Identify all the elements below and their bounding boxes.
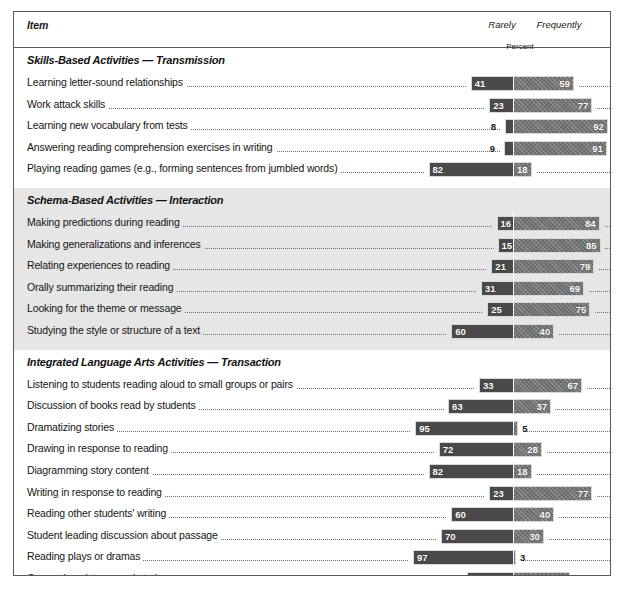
chart-row: Drawing in response to reading7228	[14, 439, 610, 461]
bar-group: 991	[14, 138, 610, 160]
bar-value-frequently: 37	[534, 399, 547, 414]
legend-label-rarely: Rarely	[475, 19, 529, 30]
chart-row: Diagramming story content8218	[14, 461, 610, 483]
zero-divider	[513, 526, 514, 548]
bar-value-frequently: 28	[525, 442, 538, 457]
bar-value-rarely: 33	[483, 378, 494, 393]
bar-group: 2179	[14, 256, 610, 278]
bar-value-frequently: 30	[527, 529, 540, 544]
bar-value-rarely: 16	[501, 216, 512, 231]
bar-rarely	[505, 119, 513, 134]
bar-value-frequently: 3	[520, 550, 525, 565]
chart-body: Skills-Based Activities — TransmissionLe…	[14, 48, 610, 575]
zero-divider	[513, 461, 514, 483]
chart-header: Item Rarely Frequently Percent	[14, 12, 610, 48]
bar-value-rarely: 23	[493, 98, 504, 113]
bar-group: 7228	[14, 439, 610, 461]
zero-divider	[513, 418, 514, 440]
bar-value-frequently: 18	[515, 464, 528, 479]
zero-divider	[513, 321, 514, 343]
zero-divider	[513, 299, 514, 321]
zero-divider	[513, 73, 514, 95]
bar-value-rarely: 95	[419, 421, 430, 436]
chart-row: Making generalizations and inferences158…	[14, 235, 610, 257]
zero-divider	[513, 483, 514, 505]
chart-section: Integrated Language Arts Activities — Tr…	[14, 350, 610, 576]
zero-divider	[513, 138, 514, 160]
bar-value-rarely: 31	[485, 281, 496, 296]
zero-divider	[513, 278, 514, 300]
chart-row: Comparing pictures and stories4555	[14, 569, 610, 576]
chart-row: Discussion of books read by students6337	[14, 396, 610, 418]
bar-group: 4555	[14, 569, 610, 576]
chart-row: Making predictions during reading1684	[14, 213, 610, 235]
chart-row: Looking for the theme or message2575	[14, 299, 610, 321]
chart-row: Reading other students' writing6040	[14, 504, 610, 526]
bar-value-frequently: 59	[557, 76, 570, 91]
bar-group: 3367	[14, 375, 610, 397]
chart-row: Relating experiences to reading2179	[14, 256, 610, 278]
chart-row: Learning letter-sound relationships4159	[14, 73, 610, 95]
zero-divider	[513, 256, 514, 278]
chart-row: Student leading discussion about passage…	[14, 526, 610, 548]
zero-divider	[513, 547, 514, 569]
bar-value-rarely: 25	[491, 302, 502, 317]
bar-value-rarely: 97	[417, 550, 428, 565]
chart-section: Skills-Based Activities — TransmissionLe…	[14, 48, 610, 188]
section-title: Skills-Based Activities — Transmission	[14, 48, 610, 73]
bar-value-frequently: 40	[537, 507, 550, 522]
chart-row: Work attack skills2377	[14, 95, 610, 117]
bar-group: 2377	[14, 95, 610, 117]
section-spacer	[14, 343, 610, 350]
bar-value-rarely: 45	[471, 572, 482, 576]
bar-rarely	[413, 550, 513, 565]
bar-value-rarely: 72	[443, 442, 454, 457]
bar-value-frequently: 85	[584, 238, 597, 253]
chart-row: Playing reading games (e.g., forming sen…	[14, 159, 610, 181]
bar-group: 6040	[14, 504, 610, 526]
bar-value-frequently: 5	[522, 421, 527, 436]
legend-label-frequently: Frequently	[523, 19, 595, 30]
bar-value-rarely: 70	[445, 529, 456, 544]
zero-divider	[513, 159, 514, 181]
bar-group: 7030	[14, 526, 610, 548]
chart-frame: Item Rarely Frequently Percent Skills-Ba…	[13, 11, 611, 576]
bar-rarely	[504, 141, 513, 156]
bar-value-rarely: 63	[452, 399, 463, 414]
zero-divider	[513, 439, 514, 461]
bar-value-frequently: 91	[590, 141, 603, 156]
chart-row: Answering reading comprehension exercise…	[14, 138, 610, 160]
chart-section: Schema-Based Activities — InteractionMak…	[14, 188, 610, 350]
chart-row: Studying the style or structure of a tex…	[14, 321, 610, 343]
bar-group: 955	[14, 418, 610, 440]
bar-value-rarely: 60	[455, 324, 466, 339]
bar-value-frequently: 77	[575, 98, 588, 113]
bar-value-rarely: 9	[490, 141, 495, 156]
section-title: Schema-Based Activities — Interaction	[14, 188, 610, 213]
zero-divider	[513, 504, 514, 526]
chart-row: Writing in response to reading2377	[14, 483, 610, 505]
zero-divider	[513, 375, 514, 397]
bar-group: 973	[14, 547, 610, 569]
bar-group: 8218	[14, 461, 610, 483]
bar-group: 1684	[14, 213, 610, 235]
bar-value-frequently: 18	[515, 162, 528, 177]
zero-divider	[513, 213, 514, 235]
bar-value-rarely: 41	[475, 76, 486, 91]
bar-group: 1585	[14, 235, 610, 257]
bar-value-frequently: 79	[577, 259, 590, 274]
chart-row: Dramatizing stories955	[14, 418, 610, 440]
zero-divider	[513, 235, 514, 257]
bar-value-rarely: 60	[455, 507, 466, 522]
bar-value-frequently: 69	[567, 281, 580, 296]
bar-value-rarely: 15	[502, 238, 513, 253]
bar-value-frequently: 67	[565, 378, 578, 393]
bar-group: 6337	[14, 396, 610, 418]
section-spacer	[14, 181, 610, 188]
column-header-item: Item	[27, 19, 48, 31]
bar-value-frequently: 75	[573, 302, 586, 317]
zero-divider	[513, 116, 514, 138]
bar-value-frequently: 55	[553, 572, 566, 576]
bar-value-rarely: 82	[433, 162, 444, 177]
chart-page: Item Rarely Frequently Percent Skills-Ba…	[0, 0, 626, 589]
